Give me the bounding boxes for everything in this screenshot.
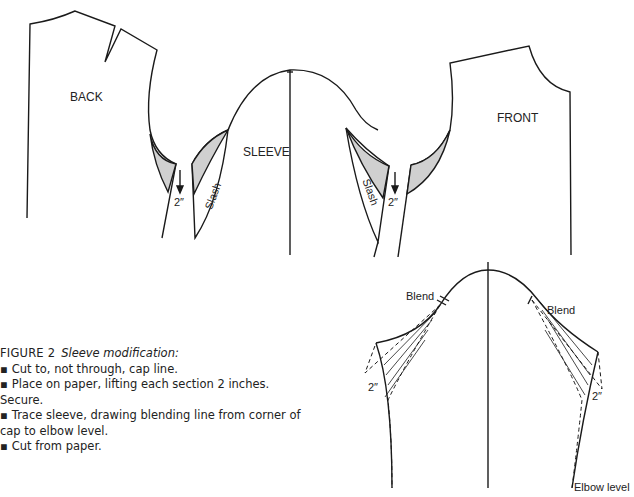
label-lower-lift-right: 2″ (592, 390, 602, 402)
front-bodice-outline (411, 46, 571, 255)
label-sleeve: SLEEVE (243, 145, 290, 159)
left-hatch (384, 312, 436, 397)
caption-step: Cut to, not through, cap line. (0, 362, 330, 378)
label-lift-right: 2″ (388, 196, 398, 208)
modified-sleeve-right-seam (572, 352, 598, 488)
caption-step: Cut from paper. (0, 439, 330, 455)
label-lower-lift-left: 2″ (368, 381, 378, 393)
pattern-figure: BACK SLEEVE FRONT Slash Slash 2″ 2″ Blen… (0, 0, 634, 497)
label-blend-left: Blend (406, 290, 434, 302)
caption-step-continued: cap to elbow level. (0, 424, 330, 440)
label-elbow-level: Elbow level (574, 481, 630, 493)
label-blend-right: Blend (547, 304, 575, 316)
front-armhole-wedge (407, 130, 450, 194)
caption-title: FIGURE 2Sleeve modification: (0, 346, 330, 362)
back-bodice-outline (27, 11, 176, 238)
sleeve-cap-curve (228, 70, 378, 130)
caption-step: Trace sleeve, drawing blending line from… (0, 408, 330, 424)
caption-step: Place on paper, lifting each section 2 i… (0, 377, 330, 393)
label-front: FRONT (497, 111, 538, 125)
sleeve-right-underarm (374, 242, 378, 257)
label-lift-left: 2″ (174, 196, 184, 208)
label-back: BACK (70, 90, 103, 104)
figure-caption: FIGURE 2Sleeve modification: Cut to, not… (0, 346, 330, 455)
caption-step-continued: Secure. (0, 393, 330, 409)
